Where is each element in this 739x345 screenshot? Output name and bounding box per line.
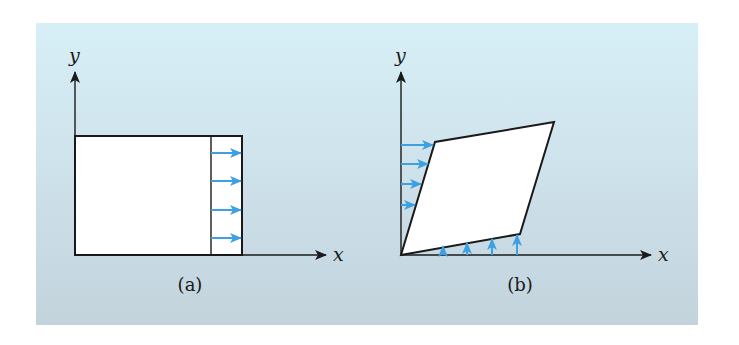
sheared-parallelogram xyxy=(401,122,554,255)
figure: y x (a) xyxy=(0,0,739,345)
diagram-canvas: y x (a) xyxy=(0,0,739,345)
x-axis-label: x xyxy=(658,243,669,265)
y-axis-label: y xyxy=(68,44,80,66)
x-axis-label: x xyxy=(333,243,344,265)
y-axis-label: y xyxy=(394,44,406,66)
panel-a: y x (a) xyxy=(68,44,344,295)
panel-caption: (b) xyxy=(507,274,533,295)
panel-b: y x (b) xyxy=(394,44,669,295)
panel-caption: (a) xyxy=(178,274,203,295)
